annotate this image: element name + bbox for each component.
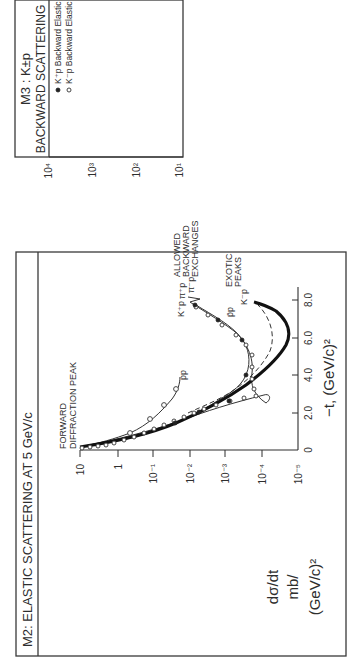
m3-title-line2: BACKWARD SCATTERING xyxy=(34,5,48,154)
m2-ann-peaks: PEAKS xyxy=(233,257,243,287)
m2-ann-piminus: π⁻p xyxy=(186,277,196,293)
m3-legend: K⁺p Backward Elastic K⁻p Backward Elasti… xyxy=(53,1,74,92)
m2-ylabel-2: mb/ xyxy=(284,574,301,600)
legend-kminus-label: K⁻p Backward Elastic xyxy=(64,1,74,84)
m3-y-ticks: 10⁴ 10³ 10² 10¹ xyxy=(43,162,185,178)
m2-ytick-1e-1: 10⁻¹ xyxy=(148,463,159,483)
m2-ytick-1: 1 xyxy=(113,464,124,470)
m3-ytick-1e3: 10³ xyxy=(87,162,98,177)
m2-xtick-4: 4.0 xyxy=(303,368,314,382)
m2-xlabel: −t, (GeV/c)² xyxy=(320,339,337,417)
m2-markers xyxy=(80,303,258,450)
m2-ylabel-3: (GeV/c)² xyxy=(306,559,323,616)
m2-ann-pbarp: p̄p xyxy=(225,307,235,317)
legend-filled-marker xyxy=(56,88,60,92)
m2-ylabel-1: dσ/dt xyxy=(264,569,281,604)
m2-ann-kplus: K⁺p xyxy=(176,301,186,317)
m2-ann-exchanges: EXCHANGES xyxy=(190,220,200,277)
m2-ytick-1e-2: 10⁻² xyxy=(185,463,196,483)
m2-xtick-0: 0 xyxy=(303,447,314,453)
figure-svg: M2: ELASTIC SCATTERING AT 5 GeV/c 10 1 1… xyxy=(0,0,352,657)
m2-y-ticks: 10 1 10⁻¹ 10⁻² 10⁻³ 10⁻⁴ 10⁻⁵ xyxy=(75,450,304,484)
figure-canvas: M2: ELASTIC SCATTERING AT 5 GeV/c 10 1 1… xyxy=(0,0,352,657)
legend-open-marker xyxy=(67,88,71,92)
m2-ann-kminus: K⁻p xyxy=(239,289,249,305)
m2-ytick-1e-3: 10⁻³ xyxy=(220,463,231,483)
m3-ytick-1e4: 10⁴ xyxy=(43,163,54,178)
m2-ytick-1e-4: 10⁻⁴ xyxy=(257,464,268,484)
m3-title-line1: M3 : K±p xyxy=(18,53,33,105)
m2-xtick-2: 2.0 xyxy=(303,406,314,420)
m3-ytick-1e1: 10¹ xyxy=(174,162,185,177)
m2-xtick-6: 6.0 xyxy=(303,331,314,345)
panel-m3: M3 : K±p BACKWARD SCATTERING K⁺p Backwar… xyxy=(15,0,185,178)
m3-ytick-1e2: 10² xyxy=(131,162,142,177)
m2-x-ticks: 0 2.0 4.0 6.0 8.0 xyxy=(292,293,314,453)
m2-ytick-1e-5: 10⁻⁵ xyxy=(293,464,304,484)
panel-m2: M2: ELASTIC SCATTERING AT 5 GeV/c 10 1 1… xyxy=(16,220,346,656)
legend-kplus-label: K⁺p Backward Elastic xyxy=(53,1,63,84)
m2-ytick-10: 10 xyxy=(75,464,86,476)
m2-ann-forward: FORWARD xyxy=(58,403,68,449)
m2-xtick-8: 8.0 xyxy=(303,293,314,307)
m2-ann-diffraction: DIFFRACTION PEAK xyxy=(68,362,78,449)
m2-title: M2: ELASTIC SCATTERING AT 5 GeV/c xyxy=(20,412,35,647)
